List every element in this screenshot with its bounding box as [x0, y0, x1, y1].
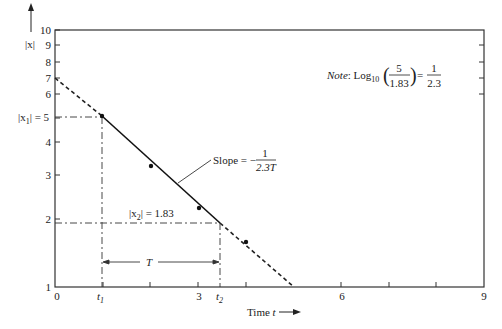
svg-text:8: 8 [46, 56, 52, 68]
svg-text:1.83: 1.83 [389, 77, 409, 89]
t2-label: t2 [216, 290, 223, 305]
x-ticks [103, 282, 436, 287]
svg-text:9: 9 [46, 39, 52, 51]
svg-text:=: = [417, 69, 423, 81]
svg-text:Note: Log10: Note: Log10 [326, 69, 379, 84]
svg-text:0: 0 [54, 290, 60, 302]
svg-text:6: 6 [339, 290, 345, 302]
y-tick-labels: 10 9 8 7 6 4 3 2 1 [40, 24, 52, 293]
x-axis-arrow-icon [279, 309, 301, 315]
period-T-arrow [103, 260, 219, 264]
svg-text:): ) [410, 64, 417, 87]
x-axis-label: Time t [247, 306, 277, 318]
svg-text:7: 7 [46, 72, 52, 84]
x1-label: |x1| = 5 [18, 111, 50, 126]
svg-text:2.3: 2.3 [427, 77, 441, 89]
svg-text:5: 5 [396, 62, 402, 74]
svg-text:10: 10 [40, 24, 52, 36]
reference-lines [55, 117, 220, 287]
y-axis-label: |x| [25, 38, 35, 50]
svg-text:3: 3 [46, 169, 52, 181]
svg-text:1: 1 [46, 281, 52, 293]
svg-text:9: 9 [481, 290, 487, 302]
y-ticks [55, 30, 60, 219]
y-axis-arrow-icon [28, 3, 34, 32]
svg-text:2.3T: 2.3T [256, 161, 277, 173]
y-ticks-right [479, 45, 484, 94]
svg-text:6: 6 [46, 88, 52, 100]
slope-label: Slope = − [213, 154, 256, 166]
note-annotation: Note: Log10 ( 5 1.83 ) = 1 2.3 [326, 62, 441, 89]
slope-fraction: 1 2.3T [256, 147, 277, 173]
svg-text:2: 2 [46, 213, 52, 225]
slope-leader-line [178, 160, 211, 183]
x-tick-labels: 0 3 6 9 [54, 290, 487, 302]
x2-label: |x2| = 1.83 [129, 207, 174, 222]
t1-label: t1 [97, 290, 104, 305]
svg-text:4: 4 [46, 136, 52, 148]
log-decay-chart: |x| 10 9 8 7 6 4 3 2 1 [0, 0, 502, 329]
svg-text:3: 3 [196, 290, 202, 302]
svg-text:1: 1 [431, 62, 437, 74]
svg-text:1: 1 [262, 147, 268, 159]
period-T-label: T [146, 256, 153, 268]
